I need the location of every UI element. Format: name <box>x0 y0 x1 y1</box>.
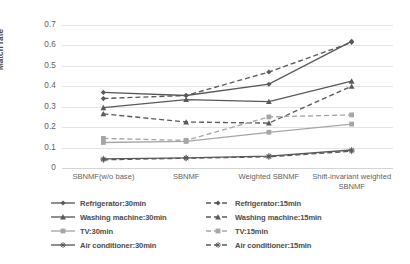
data-point-marker <box>184 138 189 143</box>
legend-key-star-icon <box>50 240 76 250</box>
data-point-marker <box>60 242 66 248</box>
data-point-marker <box>266 82 271 87</box>
data-point-marker <box>215 242 221 248</box>
legend-label: Air conditioner:15min <box>235 241 311 250</box>
data-point-marker <box>266 69 271 74</box>
data-point-marker <box>100 157 106 163</box>
legend-key-square-icon <box>205 226 231 236</box>
series-line <box>103 124 351 142</box>
series-line <box>103 41 351 95</box>
data-point-marker <box>349 122 354 127</box>
y-axis-tick-label: 0.5 <box>30 61 56 70</box>
data-point-marker <box>349 40 354 45</box>
data-point-marker <box>215 200 220 205</box>
gridline <box>62 168 393 169</box>
legend-label: Washing machine:15min <box>235 213 322 222</box>
y-axis-tick-label: 0.3 <box>30 102 56 111</box>
legend-label: TV:30min <box>80 227 113 236</box>
x-axis-tick-label: SBNMF <box>145 172 228 182</box>
y-axis-tick-label: 0 <box>30 163 56 172</box>
y-axis-tick-label: 0.4 <box>30 81 56 90</box>
legend-item: Air conditioner:30min <box>50 238 195 252</box>
legend-key-diamond-icon <box>205 198 231 208</box>
x-axis-tick-label: Shift-invariant weighted SBNMF <box>310 172 393 192</box>
data-point-marker <box>184 93 189 98</box>
series-air-conditioner-15min <box>100 148 354 163</box>
data-point-marker <box>349 83 355 88</box>
legend-key-diamond-icon <box>50 198 76 208</box>
legend-label: Washing machine:30min <box>80 213 167 222</box>
data-point-marker <box>61 229 66 234</box>
legend-key-star-icon <box>205 240 231 250</box>
series-refrigerator-30min <box>101 39 354 98</box>
y-axis-title: Match rate <box>0 29 5 70</box>
y-axis-tick-label: 0.2 <box>30 122 56 131</box>
data-point-marker <box>349 112 354 117</box>
data-point-marker <box>60 200 65 205</box>
legend-key-triangle-icon <box>50 212 76 222</box>
legend-item: Washing machine:30min <box>50 210 195 224</box>
legend-item: TV:15min <box>205 224 380 238</box>
legend-label: Refrigerator:30min <box>80 199 146 208</box>
data-point-marker <box>349 78 355 83</box>
legend-key-triangle-icon <box>205 212 231 222</box>
legend-label: Refrigerator:15min <box>235 199 301 208</box>
y-axis-tick-label: 0.7 <box>30 20 56 29</box>
data-point-marker <box>266 115 271 120</box>
series-refrigerator-15min <box>101 40 354 101</box>
legend-item: Washing machine:15min <box>205 210 380 224</box>
legend-item: Refrigerator:30min <box>50 196 195 210</box>
series-tv-30min <box>101 122 354 145</box>
legend-key-square-icon <box>50 226 76 236</box>
data-point-marker <box>216 229 221 234</box>
x-axis-tick-label: SBNMF(w/o base) <box>62 172 145 182</box>
y-axis-tick-label: 0.6 <box>30 40 56 49</box>
legend-label: TV:15min <box>235 227 268 236</box>
data-point-marker <box>101 136 106 141</box>
data-point-marker <box>349 148 355 154</box>
legend-label: Air conditioner:30min <box>80 241 156 250</box>
data-point-marker <box>266 130 271 135</box>
legend-item: Air conditioner:15min <box>205 238 380 252</box>
chart-legend: Refrigerator:30minRefrigerator:15minWash… <box>50 196 400 254</box>
x-axis-tick-label: Weighted SBNMF <box>228 172 311 182</box>
legend-item: TV:30min <box>50 224 195 238</box>
data-point-marker <box>101 140 106 145</box>
series-lines <box>62 25 393 168</box>
line-chart: Match rate 0.70.60.50.40.30.20.10 SBNMF(… <box>0 0 410 264</box>
data-point-marker <box>101 90 106 95</box>
y-axis-tick-label: 0.1 <box>30 143 56 152</box>
legend-item: Refrigerator:15min <box>205 196 380 210</box>
plot-area <box>62 25 393 168</box>
data-point-marker <box>101 96 106 101</box>
